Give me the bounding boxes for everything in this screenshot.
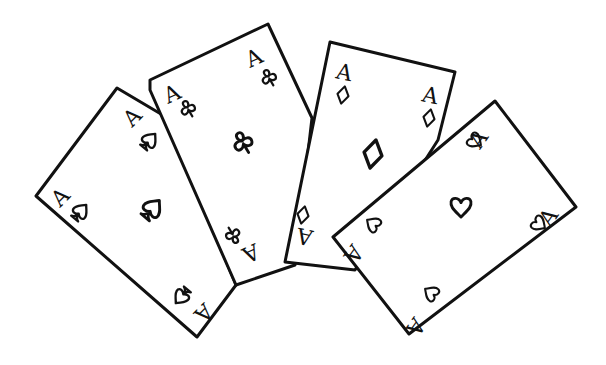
card-fan-illustration: A A A A A A A A A A A A A [0, 0, 606, 365]
